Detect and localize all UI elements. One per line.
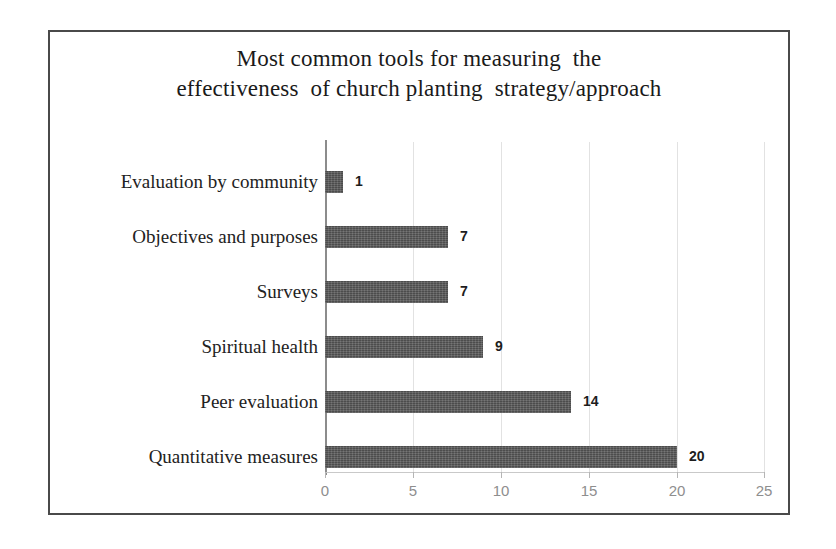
axis-tick-label: 10 (493, 482, 510, 499)
bar-value-label: 20 (689, 448, 705, 464)
chart-title: Most common tools for measuring the effe… (48, 44, 790, 104)
axis-tick-label: 20 (669, 482, 686, 499)
category-label: Evaluation by community (48, 171, 318, 193)
bar-peer-evaluation (325, 391, 571, 413)
value-axis-baseline (325, 472, 765, 473)
category-label: Surveys (48, 281, 318, 303)
bar-quantitative-measures (325, 446, 677, 468)
bar-value-label: 7 (460, 228, 468, 244)
axis-tick-label: 25 (756, 482, 773, 499)
bar-value-label: 7 (460, 283, 468, 299)
bar-value-label: 14 (583, 393, 599, 409)
bar-spiritual-health (325, 336, 483, 358)
gridline-x-5 (413, 142, 414, 472)
category-label: Quantitative measures (48, 446, 318, 468)
axis-tick (501, 472, 502, 478)
plot-area: 1 7 7 9 14 20 (325, 142, 765, 472)
category-label: Spiritual health (48, 336, 318, 358)
axis-tick (677, 472, 678, 478)
chart-title-line-2: effectiveness of church planting strateg… (48, 74, 790, 104)
axis-tick (764, 472, 765, 478)
bar-evaluation-by-community (325, 171, 343, 193)
value-axis: 0 5 10 15 20 25 (325, 472, 765, 512)
bar-value-label: 9 (495, 338, 503, 354)
category-axis: Evaluation by community Objectives and p… (48, 142, 318, 472)
chart-title-line-1: Most common tools for measuring the (48, 44, 790, 74)
gridline-x-15 (589, 142, 590, 472)
axis-tick (589, 472, 590, 478)
axis-tick (325, 472, 326, 478)
axis-tick-label: 15 (581, 482, 598, 499)
gridline-x-20 (677, 142, 678, 472)
gridline-x-25 (764, 142, 765, 472)
bar-surveys (325, 281, 448, 303)
category-label: Objectives and purposes (48, 226, 318, 248)
axis-tick (413, 472, 414, 478)
axis-tick-label: 0 (321, 482, 329, 499)
axis-tick-label: 5 (409, 482, 417, 499)
bar-objectives-and-purposes (325, 226, 448, 248)
plot-region: Evaluation by community Objectives and p… (48, 130, 790, 515)
gridline-x-10 (501, 142, 502, 472)
category-label: Peer evaluation (48, 391, 318, 413)
bar-value-label: 1 (355, 173, 363, 189)
